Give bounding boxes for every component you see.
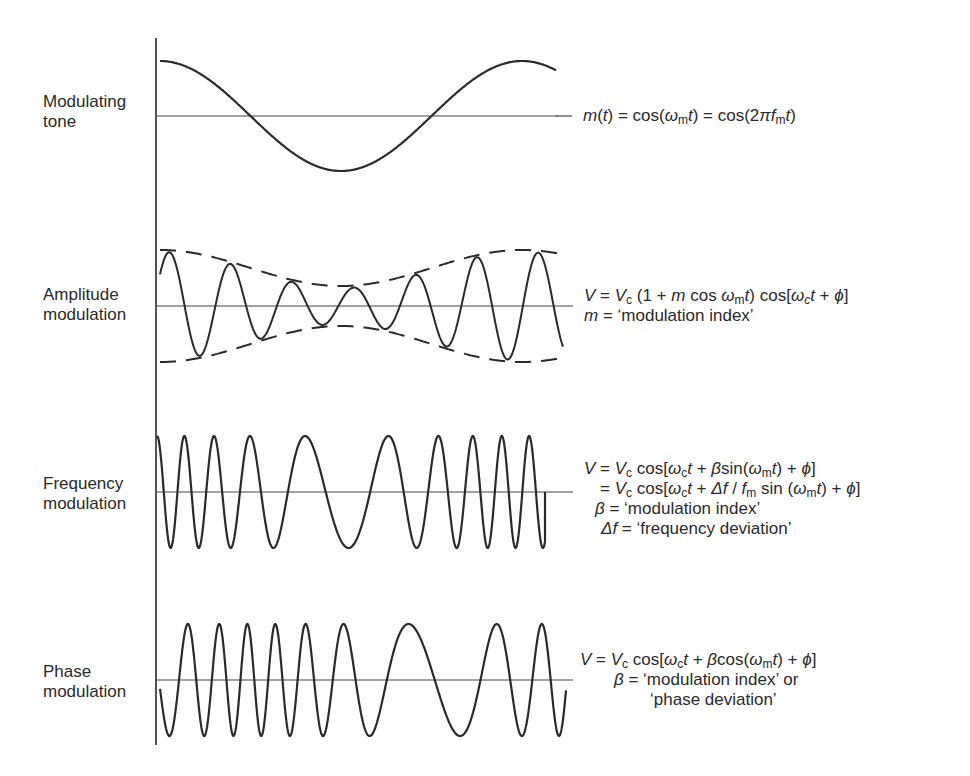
- eq-text: ) = cos(: [608, 106, 665, 125]
- eq-text: ]: [811, 459, 816, 478]
- equation-pm-2: β = ‘modulation index’ or: [614, 670, 798, 690]
- eq-text: +: [815, 286, 834, 305]
- eq-text: = ‘frequency deviation’: [617, 519, 791, 538]
- eq-text: = ‘modulation index’ or: [624, 670, 799, 689]
- eq-sym: m: [583, 106, 597, 125]
- equation-fm-3: β = ‘modulation index’: [595, 499, 760, 519]
- label-line: Frequency: [43, 474, 126, 494]
- eq-sub: m: [775, 113, 785, 127]
- eq-sym: V: [615, 479, 626, 498]
- eq-sym: π: [759, 106, 770, 125]
- eq-text: ) +: [776, 459, 801, 478]
- eq-text: sin(: [721, 459, 748, 478]
- equation-pm-3: ‘phase deviation’: [650, 690, 777, 710]
- label-phase-modulation: Phase modulation: [43, 662, 126, 702]
- eq-sym: V: [584, 459, 595, 478]
- am-envelope-bottom: [160, 326, 563, 362]
- label-line: modulation: [43, 305, 126, 325]
- eq-text: ): [790, 106, 796, 125]
- eq-sym: ϕ: [802, 650, 811, 669]
- eq-sym: β: [707, 650, 717, 669]
- eq-text: =: [600, 479, 615, 498]
- eq-text: ) cos[: [749, 286, 791, 305]
- eq-text: cos: [685, 286, 721, 305]
- eq-text: ) +: [821, 479, 846, 498]
- equation-fm-4: Δf = ‘frequency deviation’: [601, 519, 792, 539]
- eq-sym: ω: [793, 479, 806, 498]
- eq-text: =: [595, 459, 614, 478]
- eq-text: /: [727, 479, 741, 498]
- eq-text: +: [692, 459, 711, 478]
- eq-text: ]: [812, 650, 817, 669]
- label-frequency-modulation: Frequency modulation: [43, 474, 126, 514]
- eq-sym: Δf: [601, 519, 617, 538]
- eq-sym: m: [671, 286, 685, 305]
- eq-sub: m: [762, 657, 772, 671]
- eq-text: =: [595, 286, 614, 305]
- label-line: Modulating: [43, 92, 126, 112]
- eq-text: cos[: [628, 650, 664, 669]
- eq-text: +: [688, 650, 707, 669]
- label-amplitude-modulation: Amplitude modulation: [43, 285, 126, 325]
- eq-text: =: [591, 650, 610, 669]
- label-line: Amplitude: [43, 285, 126, 305]
- eq-sym: ω: [748, 459, 761, 478]
- eq-sub: m: [762, 466, 772, 480]
- eq-sym: V: [580, 650, 591, 669]
- eq-sym: ω: [791, 286, 804, 305]
- eq-text: cos[: [632, 459, 668, 478]
- label-line: tone: [43, 112, 126, 132]
- eq-text: ) +: [777, 650, 802, 669]
- eq-sym: ϕ: [846, 479, 855, 498]
- eq-sym: ϕ: [834, 286, 843, 305]
- eq-sym: V: [584, 286, 595, 305]
- eq-sub: m: [746, 486, 756, 500]
- eq-sym: ω: [721, 286, 734, 305]
- eq-sym: ω: [665, 106, 678, 125]
- eq-sym: ω: [749, 650, 762, 669]
- label-line: modulation: [43, 682, 126, 702]
- equation-am-2: m = ‘modulation index’: [584, 306, 754, 326]
- eq-text: ]: [844, 286, 849, 305]
- modulation-diagram: [0, 0, 970, 776]
- eq-sub: m: [806, 486, 816, 500]
- eq-text: sin (: [756, 479, 793, 498]
- eq-sym: V: [615, 459, 626, 478]
- eq-sym: ω: [668, 479, 681, 498]
- equation-tone: m(t) = cos(ωmt) = cos(2πfmt): [583, 106, 796, 130]
- eq-text: cos[: [632, 479, 668, 498]
- eq-text: ]: [856, 479, 861, 498]
- eq-sym: β: [614, 670, 624, 689]
- label-modulating-tone: Modulating tone: [43, 92, 126, 132]
- eq-sym: m: [584, 306, 598, 325]
- eq-sym: ω: [664, 650, 677, 669]
- eq-sub: m: [735, 293, 745, 307]
- eq-sym: Δf: [711, 479, 727, 498]
- eq-text: +: [692, 479, 711, 498]
- eq-sym: V: [615, 286, 626, 305]
- eq-sym: ϕ: [801, 459, 810, 478]
- eq-sub: m: [678, 113, 688, 127]
- eq-sym: V: [611, 650, 622, 669]
- eq-text: (1 +: [632, 286, 671, 305]
- eq-text: = ‘modulation index’: [605, 499, 760, 518]
- eq-sym: ω: [668, 459, 681, 478]
- eq-text: ‘phase deviation’: [650, 690, 777, 709]
- eq-sym: β: [595, 499, 605, 518]
- eq-text: cos(: [717, 650, 749, 669]
- label-line: modulation: [43, 494, 126, 514]
- eq-sym: β: [711, 459, 721, 478]
- eq-text: ) = cos(2: [693, 106, 760, 125]
- label-line: Phase: [43, 662, 126, 682]
- eq-text: = ‘modulation index’: [598, 306, 753, 325]
